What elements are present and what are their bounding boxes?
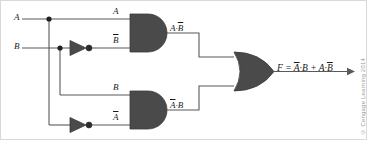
copyright-credit: © Cengage Learning 2014 <box>360 58 366 135</box>
and-gate-bottom-output-label: A·B <box>170 101 183 110</box>
and-gate-top-output-label: A·B <box>170 24 183 33</box>
junction-dot-a <box>46 16 51 21</box>
input-label-a: A <box>14 13 20 22</box>
and-gate-top <box>130 14 167 52</box>
wire-and-top-to-or <box>167 33 234 57</box>
inverter-a-triangle <box>70 118 86 133</box>
and-gate-bottom <box>130 91 167 129</box>
wire-label-a-bar: A <box>113 113 119 122</box>
or-gate <box>234 52 274 91</box>
output-arrow-icon <box>347 68 355 75</box>
inverter-b-bubble <box>86 45 92 51</box>
inverter-b-triangle <box>70 41 86 56</box>
wire-label-b: B <box>113 83 119 92</box>
output-expression: F = A·B + A·B <box>277 64 333 74</box>
wire-label-a: A <box>113 7 119 16</box>
junction-dot-b <box>57 45 62 50</box>
input-label-b: B <box>14 42 20 51</box>
logic-circuit-diagram: A B A B B A A·B A·B F = A·B + A·B © Ceng… <box>0 0 368 141</box>
inverter-a-bubble <box>86 122 92 128</box>
wire-label-b-bar: B <box>113 36 119 45</box>
